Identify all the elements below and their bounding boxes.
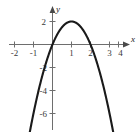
y-axis-label: y bbox=[55, 4, 60, 14]
x-axis-label: x bbox=[130, 34, 135, 44]
y-tick-label: -4 bbox=[40, 86, 48, 96]
x-tick-label: -2 bbox=[11, 48, 19, 58]
x-tick-label: 3 bbox=[107, 48, 112, 58]
x-tick-labels-group: -2 -1 1 2 3 4 bbox=[11, 48, 124, 58]
parabola-chart-figure: -2 -1 1 2 3 4 2 -2 -4 -6 x y bbox=[0, 0, 140, 132]
chart-canvas: -2 -1 1 2 3 4 2 -2 -4 -6 x y bbox=[0, 0, 140, 132]
y-tick-label: -6 bbox=[40, 109, 48, 119]
y-tick-label: 2 bbox=[42, 17, 47, 27]
x-tick-label: 1 bbox=[69, 48, 74, 58]
y-axis-arrow-icon bbox=[50, 6, 56, 13]
x-tick-label: 4 bbox=[118, 48, 123, 58]
axes-group bbox=[9, 6, 130, 130]
x-tick-label: -1 bbox=[30, 48, 38, 58]
x-axis-arrow-icon bbox=[123, 42, 130, 48]
